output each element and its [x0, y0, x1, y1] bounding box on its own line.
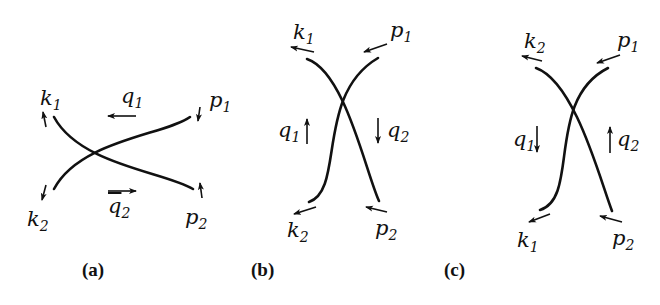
caption-a: (a)	[82, 259, 104, 281]
label-k2: k2	[287, 220, 309, 244]
arrow-p1-icon	[198, 107, 200, 121]
caption-c: (c)	[444, 259, 465, 281]
arrow-k1-icon	[43, 112, 46, 127]
arrow-p2-icon	[600, 216, 622, 222]
propagator-k2-p2	[536, 68, 612, 211]
arrow-p2-icon	[366, 207, 387, 212]
label-p1: p1	[390, 20, 412, 44]
arrow-p1-icon	[364, 44, 387, 52]
panel-c-lines	[536, 68, 612, 211]
label-q2: q2	[617, 129, 639, 153]
arrow-k2-icon	[42, 185, 46, 200]
arrow-p1-icon	[597, 55, 620, 63]
label-q2: q2	[387, 120, 409, 144]
label-q1: q1	[121, 86, 143, 110]
label-p2: p2	[612, 228, 634, 252]
arrow-k2-icon	[522, 56, 542, 61]
arrow-p2-icon	[200, 183, 202, 198]
caption-b: (b)	[251, 259, 274, 281]
label-p2: p2	[185, 207, 207, 231]
label-q1: q1	[513, 129, 535, 153]
label-p1: p1	[617, 30, 639, 54]
arrow-k2-icon	[294, 207, 316, 214]
arrow-k1-icon	[529, 214, 550, 222]
propagator-k2-p1	[309, 58, 378, 202]
propagator-k1-p2	[307, 59, 379, 201]
propagator-k1-p1	[540, 68, 608, 210]
arrow-k1-icon	[291, 47, 314, 52]
label-k1: k1	[40, 88, 62, 112]
label-k2: k2	[27, 209, 49, 233]
label-k1: k1	[517, 230, 539, 254]
panel-b-lines	[307, 58, 379, 202]
label-q1: q1	[278, 120, 300, 144]
panel-a-lines	[54, 117, 193, 189]
label-p1: p1	[209, 90, 231, 114]
label-q2: q2	[108, 196, 130, 220]
label-k1: k1	[293, 22, 315, 46]
label-p2: p2	[375, 218, 397, 242]
propagator-k1-p2	[54, 117, 193, 189]
label-k2: k2	[524, 31, 546, 55]
